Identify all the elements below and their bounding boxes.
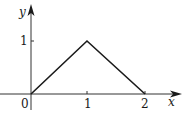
chart: 0 1 2 1 x y: [0, 0, 188, 124]
data-series-line: [31, 41, 145, 94]
x-tick-label-1: 1: [84, 97, 92, 111]
origin-label: 0: [21, 97, 29, 111]
x-axis-label: x: [168, 95, 175, 109]
x-tick-label-2: 2: [141, 97, 149, 111]
y-axis-label: y: [18, 5, 26, 19]
y-tick-label-1: 1: [20, 34, 28, 48]
